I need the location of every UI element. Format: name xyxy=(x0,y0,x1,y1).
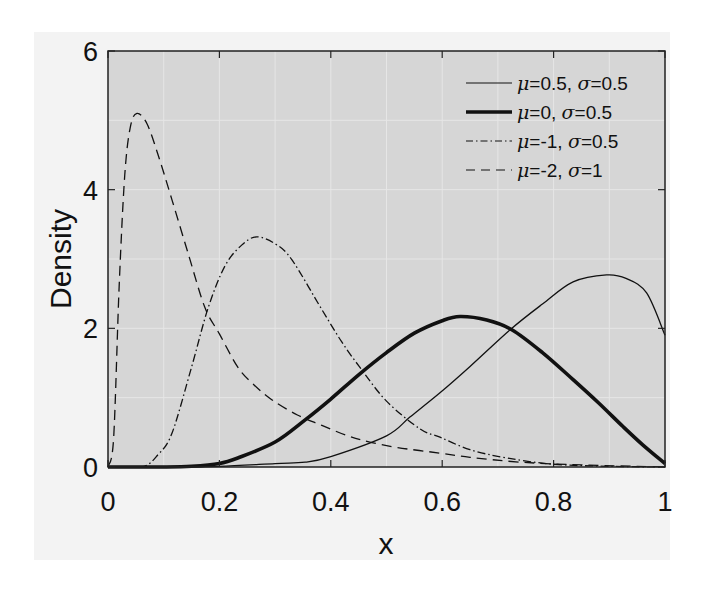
x-tick-label: 0.6 xyxy=(423,487,461,517)
legend-label: μ=-2, σ=1 xyxy=(517,159,603,181)
y-axis-label: Density xyxy=(44,209,77,309)
y-tick-label: 4 xyxy=(83,176,98,206)
x-tick-label: 0.8 xyxy=(535,487,573,517)
y-tick-label: 2 xyxy=(83,314,98,344)
x-tick-label: 0 xyxy=(100,487,115,517)
chart-svg: 0 0.2 0.4 0.6 0.8 1 0 2 4 6 x Density μ=… xyxy=(0,0,705,594)
figure: 0 0.2 0.4 0.6 0.8 1 0 2 4 6 x Density μ=… xyxy=(0,0,705,594)
legend-label: μ=0.5, σ=0.5 xyxy=(517,72,628,94)
x-tick-label: 0.4 xyxy=(312,487,350,517)
legend-label: μ=-1, σ=0.5 xyxy=(517,130,618,152)
x-tick-label: 0.2 xyxy=(201,487,239,517)
y-tick-label: 0 xyxy=(83,453,98,483)
legend-label: μ=0, σ=0.5 xyxy=(517,101,612,123)
x-tick-label: 1 xyxy=(657,487,672,517)
y-tick-label: 6 xyxy=(83,37,98,67)
x-axis-label: x xyxy=(379,527,394,560)
